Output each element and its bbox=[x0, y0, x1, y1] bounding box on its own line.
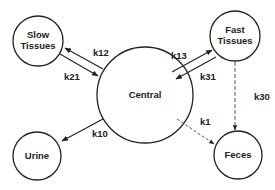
node-urine: Urine bbox=[13, 132, 61, 180]
slow-tissues-label-line2: Tissues bbox=[20, 40, 55, 51]
node-feces: Feces bbox=[214, 131, 262, 179]
fast-tissues-label-line1: Fast bbox=[225, 24, 245, 35]
edge-k30-label: k30 bbox=[254, 91, 270, 102]
slow-tissues-label-line1: Slow bbox=[27, 29, 50, 40]
compartment-diagram: Slow Tissues Fast Tissues Central Urine … bbox=[0, 0, 275, 190]
edge-k10-label: k10 bbox=[92, 128, 108, 139]
feces-label: Feces bbox=[225, 149, 252, 160]
fast-tissues-label-line2: Tissues bbox=[217, 35, 252, 46]
edge-k31-label: k31 bbox=[200, 71, 217, 82]
edge-k1-label: k1 bbox=[200, 116, 211, 127]
urine-label: Urine bbox=[25, 150, 49, 161]
central-label: Central bbox=[129, 89, 162, 100]
edge-k21-label: k21 bbox=[64, 71, 81, 82]
node-slow-tissues: Slow Tissues bbox=[13, 16, 63, 66]
edge-k12-label: k12 bbox=[93, 47, 109, 58]
node-central: Central bbox=[97, 47, 193, 143]
node-fast-tissues: Fast Tissues bbox=[210, 11, 260, 61]
edge-k13-label: k13 bbox=[171, 50, 187, 61]
